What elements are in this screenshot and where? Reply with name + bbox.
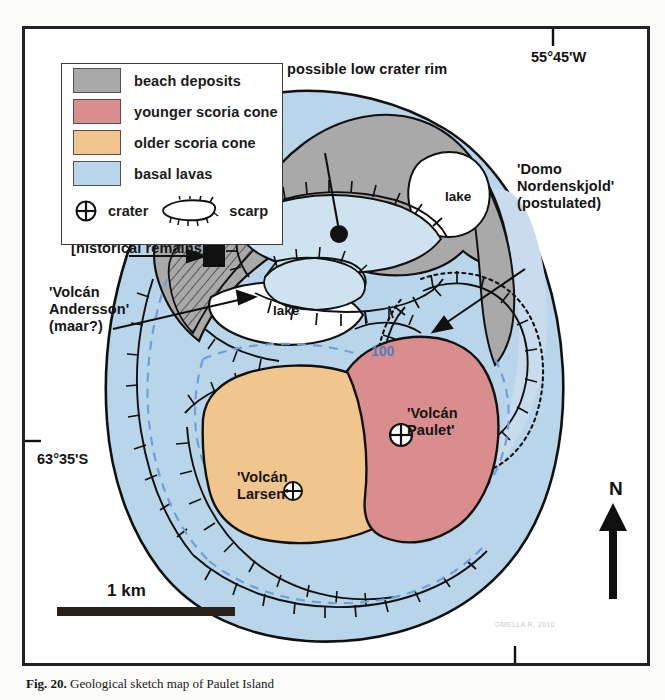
north-arrow-label: N (609, 478, 623, 500)
legend-swatch-younger-scoria-cone (73, 99, 121, 124)
figure-container: beach deposits younger scoria cone older… (0, 0, 665, 700)
legend-item-basal-lavas: basal lavas (73, 159, 282, 188)
legend-symbols-row: crater sca (73, 196, 282, 226)
bleed-through-text: OMELLA R, 2010 (495, 621, 555, 628)
label-contour-100: 100 (371, 343, 394, 359)
legend-label-younger-scoria-cone: younger scoria cone (134, 104, 278, 120)
label-lake-west: lake (273, 303, 299, 318)
legend-swatch-basal-lavas (73, 161, 121, 186)
legend-item-younger-scoria-cone: younger scoria cone (73, 97, 282, 126)
legend-item-older-scoria-cone: older scoria cone (73, 128, 282, 157)
scarp-icon (158, 196, 220, 226)
annotation-domo-nordenskjold: 'Domo Nordenskjold' (postulated) (517, 161, 614, 212)
legend-label-basal-lavas: basal lavas (134, 166, 213, 182)
legend-swatch-older-scoria-cone (73, 130, 121, 155)
map-frame: beach deposits younger scoria cone older… (22, 26, 650, 666)
label-latitude: 63°35'S (37, 451, 88, 467)
caption-figure-number: Fig. 20. (26, 676, 67, 691)
figure-caption: Fig. 20. Geological sketch map of Paulet… (26, 676, 646, 692)
legend-swatch-beach-deposits (73, 68, 121, 93)
legend-label-scarp: scarp (229, 203, 268, 219)
age-sample-dot (330, 225, 348, 243)
scale-bar-label: 1 km (107, 581, 146, 601)
legend-label-older-scoria-cone: older scoria cone (134, 135, 256, 151)
legend-label-beach-deposits: beach deposits (134, 73, 241, 89)
annotation-volcan-paulet: 'Volcán Paulet' (407, 405, 458, 439)
legend-label-crater: crater (108, 203, 148, 219)
north-arrow-icon (597, 503, 629, 599)
caption-text: Geological sketch map of Paulet Island (70, 676, 274, 691)
label-longitude: 55°45'W (531, 49, 586, 65)
annotation-volcan-larsen: 'Volcán Larsen' (237, 469, 289, 503)
annotation-possible-low-crater-rim: possible low crater rim (287, 61, 447, 78)
label-lake-north: lake (445, 189, 471, 204)
crater-icon (73, 198, 99, 224)
scale-bar (57, 607, 235, 616)
annotation-volcan-andersson: 'Volcán Andersson' (maar?) (49, 284, 129, 335)
legend-item-beach-deposits: beach deposits (73, 66, 282, 95)
legend-box: beach deposits younger scoria cone older… (61, 63, 283, 245)
